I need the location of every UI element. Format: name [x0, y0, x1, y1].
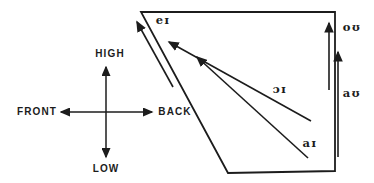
- front-label: FRONT: [17, 106, 57, 117]
- glide-arrow-ai: [197, 57, 308, 158]
- ei-label: eɪ: [156, 13, 171, 27]
- direction-compass: HIGH LOW FRONT BACK: [17, 48, 192, 174]
- ou-label: oʊ: [343, 20, 361, 34]
- oi-label: ɔɪ: [273, 82, 287, 96]
- au-label: aʊ: [343, 86, 361, 100]
- back-label: BACK: [158, 106, 191, 117]
- diagram-canvas: HIGH LOW FRONT BACK eɪ oʊ ɔɪ aʊ aɪ: [0, 0, 374, 183]
- ai-label: aɪ: [303, 136, 318, 150]
- high-label: HIGH: [95, 48, 124, 59]
- diphthong-glide-figure: HIGH LOW FRONT BACK eɪ oʊ ɔɪ aʊ aɪ: [0, 0, 374, 183]
- glide-labels: eɪ oʊ ɔɪ aʊ aɪ: [156, 13, 362, 150]
- glide-arrow-ei: [137, 22, 173, 87]
- low-label: LOW: [93, 163, 120, 174]
